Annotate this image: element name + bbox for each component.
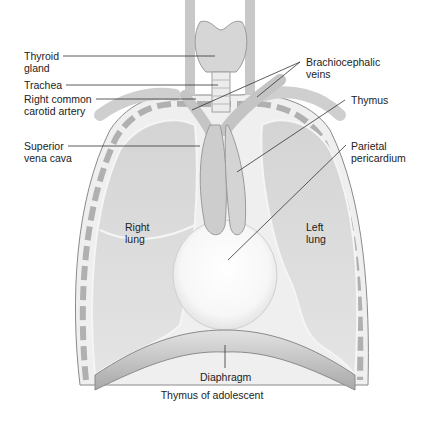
pericardium <box>173 220 277 330</box>
label-right-lung: Right lung <box>125 221 150 245</box>
trachea <box>212 72 230 112</box>
label-trachea: Trachea <box>24 79 62 91</box>
label-thymus: Thymus <box>351 94 388 106</box>
thyroid-gland <box>195 21 247 72</box>
label-right-common-carotid-artery: Right common carotid artery <box>24 93 92 117</box>
figure-caption: Thymus of adolescent <box>0 389 424 401</box>
label-parietal-pericardium: Parietal pericardium <box>351 140 406 164</box>
thymus-anatomy-figure: Thyroid gland Trachea Right common carot… <box>0 0 424 421</box>
label-thyroid-gland: Thyroid gland <box>24 50 59 74</box>
label-diaphragm: Diaphragm <box>200 371 251 383</box>
label-superior-vena-cava: Superior vena cava <box>24 140 72 164</box>
label-brachiocephalic-veins: Brachiocephalic veins <box>306 56 380 80</box>
label-left-lung: Left lung <box>306 221 326 245</box>
